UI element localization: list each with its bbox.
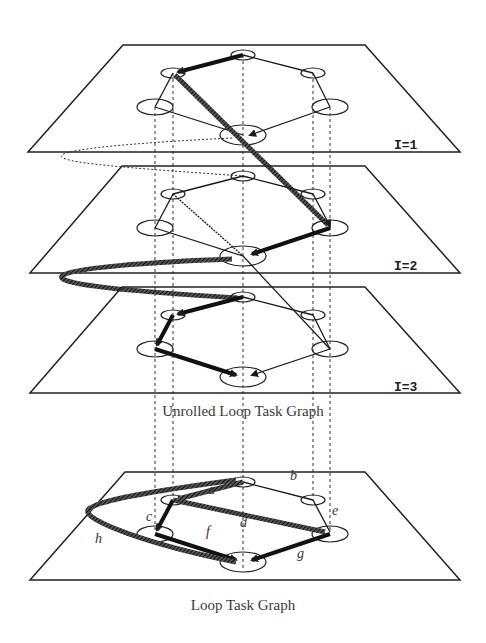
plane-label-3: I=3 — [394, 380, 417, 395]
edge-label-g: g — [297, 546, 304, 562]
caption-loop-task-graph: Loop Task Graph — [0, 597, 486, 614]
critical-edge-2 — [252, 228, 330, 254]
critical-edge-1 — [178, 55, 243, 72]
edge-label-c: c — [146, 509, 152, 525]
plane-label-2: I=2 — [394, 259, 417, 274]
edge-label-d: d — [240, 515, 247, 531]
edge-label-a: a — [208, 482, 215, 498]
plane-iteration-3 — [30, 287, 460, 393]
loop-back-curve-1 — [62, 138, 243, 176]
edge-label-f: f — [206, 524, 210, 540]
loop-back-curve-2 — [62, 259, 238, 298]
caption-unrolled-loop-task-graph: Unrolled Loop Task Graph — [0, 403, 486, 420]
cross-iteration-edge-1-2 — [175, 75, 328, 225]
plane-label-1: I=1 — [394, 138, 417, 153]
edge-label-b: b — [290, 468, 297, 484]
loop-task-graph-diagram — [0, 0, 486, 643]
edge-label-h: h — [95, 531, 102, 547]
plane-iteration-1 — [28, 45, 460, 152]
plane-iteration-2 — [30, 166, 460, 273]
edge-label-e: e — [332, 503, 338, 519]
